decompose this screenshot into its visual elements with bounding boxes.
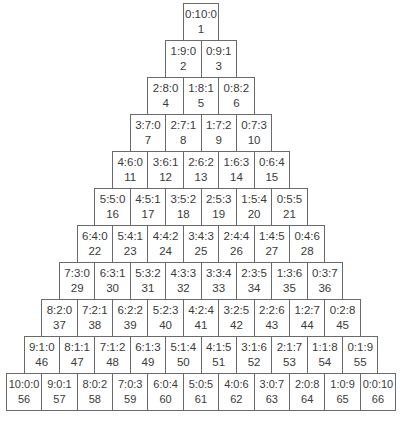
- pyramid-cell: 3:6:112: [147, 151, 183, 189]
- cell-number: 9: [215, 133, 221, 148]
- cell-ratio: 1:2:7: [294, 303, 320, 318]
- cell-number: 10: [248, 133, 261, 148]
- pyramid-cell: 1:5:420: [236, 188, 272, 226]
- pyramid-cell: 0:7:310: [236, 114, 272, 152]
- cell-number: 33: [212, 281, 225, 296]
- cell-ratio: 3:1:6: [241, 340, 267, 355]
- pyramid-row: 1:9:020:9:13: [0, 40, 402, 78]
- pyramid-cell: 4:4:224: [147, 225, 183, 263]
- cell-ratio: 1:7:2: [206, 118, 232, 133]
- pyramid-row: 2:8:041:8:150:8:26: [0, 77, 402, 115]
- cell-ratio: 3:4:3: [188, 229, 214, 244]
- cell-ratio: 2:3:5: [241, 266, 267, 281]
- cell-number: 36: [318, 281, 331, 296]
- cell-number: 57: [53, 392, 65, 407]
- pyramid-cell: 3:7:07: [130, 114, 166, 152]
- cell-ratio: 4:2:4: [188, 303, 214, 318]
- ratio-pyramid: 0:10:011:9:020:9:132:8:041:8:150:8:263:7…: [0, 3, 402, 411]
- cell-ratio: 1:6:3: [224, 155, 250, 170]
- cell-number: 37: [53, 318, 66, 333]
- pyramid-cell: 1:3:635: [271, 262, 307, 300]
- cell-ratio: 4:0:6: [224, 377, 248, 392]
- cell-number: 65: [336, 392, 348, 407]
- pyramid-cell: 4:2:441: [183, 299, 219, 337]
- cell-number: 42: [230, 318, 243, 333]
- cell-number: 50: [177, 355, 190, 370]
- pyramid-cell: 2:0:864: [289, 373, 325, 411]
- cell-number: 45: [336, 318, 349, 333]
- cell-ratio: 2:7:1: [171, 118, 197, 133]
- cell-ratio: 4:3:3: [171, 266, 197, 281]
- pyramid-cell: 2:4:426: [218, 225, 254, 263]
- cell-number: 14: [230, 170, 243, 185]
- cell-number: 51: [212, 355, 225, 370]
- pyramid-cell: 1:1:854: [307, 336, 343, 374]
- cell-number: 40: [159, 318, 172, 333]
- pyramid-cell: 6:4:022: [77, 225, 113, 263]
- pyramid-cell: 5:0:561: [183, 373, 219, 411]
- cell-ratio: 0:0:10: [363, 377, 394, 392]
- pyramid-cell: 7:2:138: [77, 299, 113, 337]
- cell-ratio: 6:3:1: [100, 266, 126, 281]
- cell-number: 25: [195, 244, 208, 259]
- pyramid-cell: 5:1:450: [165, 336, 201, 374]
- cell-ratio: 7:3:0: [64, 266, 90, 281]
- pyramid-cell: 8:2:037: [41, 299, 77, 337]
- pyramid-cell: 2:7:18: [165, 114, 201, 152]
- cell-number: 43: [265, 318, 278, 333]
- pyramid-cell: 0:8:26: [218, 77, 254, 115]
- cell-ratio: 1:3:6: [277, 266, 303, 281]
- cell-number: 22: [88, 244, 101, 259]
- cell-ratio: 2:2:6: [259, 303, 285, 318]
- cell-number: 8: [180, 133, 186, 148]
- cell-ratio: 9:1:0: [29, 340, 55, 355]
- cell-number: 60: [159, 392, 171, 407]
- pyramid-cell: 0:5:521: [271, 188, 307, 226]
- pyramid-cell: 7:3:029: [59, 262, 95, 300]
- pyramid-cell: 2:8:04: [147, 77, 183, 115]
- cell-ratio: 2:1:7: [277, 340, 303, 355]
- cell-ratio: 4:5:1: [135, 192, 161, 207]
- cell-number: 3: [215, 59, 221, 74]
- cell-number: 7: [145, 133, 151, 148]
- cell-ratio: 8:1:1: [64, 340, 90, 355]
- cell-number: 41: [195, 318, 208, 333]
- cell-ratio: 3:6:1: [153, 155, 179, 170]
- cell-ratio: 2:4:4: [224, 229, 250, 244]
- cell-ratio: 8:2:0: [47, 303, 73, 318]
- cell-ratio: 7:2:1: [82, 303, 108, 318]
- cell-ratio: 0:7:3: [241, 118, 267, 133]
- cell-number: 26: [230, 244, 243, 259]
- cell-number: 56: [18, 392, 30, 407]
- pyramid-cell: 3:1:652: [236, 336, 272, 374]
- cell-number: 27: [265, 244, 278, 259]
- cell-number: 32: [177, 281, 190, 296]
- cell-ratio: 5:4:1: [117, 229, 143, 244]
- cell-ratio: 2:5:3: [206, 192, 232, 207]
- cell-ratio: 5:2:3: [153, 303, 179, 318]
- cell-ratio: 0:4:6: [294, 229, 320, 244]
- cell-ratio: 1:0:9: [330, 377, 354, 392]
- cell-ratio: 1:5:4: [241, 192, 267, 207]
- pyramid-cell: 3:3:433: [201, 262, 237, 300]
- pyramid-cell: 5:5:016: [94, 188, 130, 226]
- pyramid-cell: 3:5:218: [165, 188, 201, 226]
- pyramid-row: 8:2:0377:2:1386:2:2395:2:3404:2:4413:2:5…: [0, 299, 402, 337]
- pyramid-cell: 5:3:231: [130, 262, 166, 300]
- cell-number: 31: [142, 281, 155, 296]
- pyramid-cell: 0:1:955: [342, 336, 378, 374]
- pyramid-cell: 0:6:415: [254, 151, 290, 189]
- cell-ratio: 0:9:1: [206, 44, 232, 59]
- pyramid-cell: 4:6:011: [112, 151, 148, 189]
- pyramid-cell: 0:2:845: [324, 299, 360, 337]
- cell-ratio: 8:0:2: [83, 377, 107, 392]
- cell-ratio: 5:3:2: [135, 266, 161, 281]
- pyramid-cell: 0:0:1066: [360, 373, 396, 411]
- cell-number: 52: [248, 355, 261, 370]
- cell-ratio: 4:1:5: [206, 340, 232, 355]
- pyramid-cell: 4:0:662: [218, 373, 254, 411]
- cell-number: 47: [71, 355, 84, 370]
- pyramid-cell: 8:1:147: [59, 336, 95, 374]
- cell-ratio: 0:2:8: [330, 303, 356, 318]
- cell-number: 55: [354, 355, 367, 370]
